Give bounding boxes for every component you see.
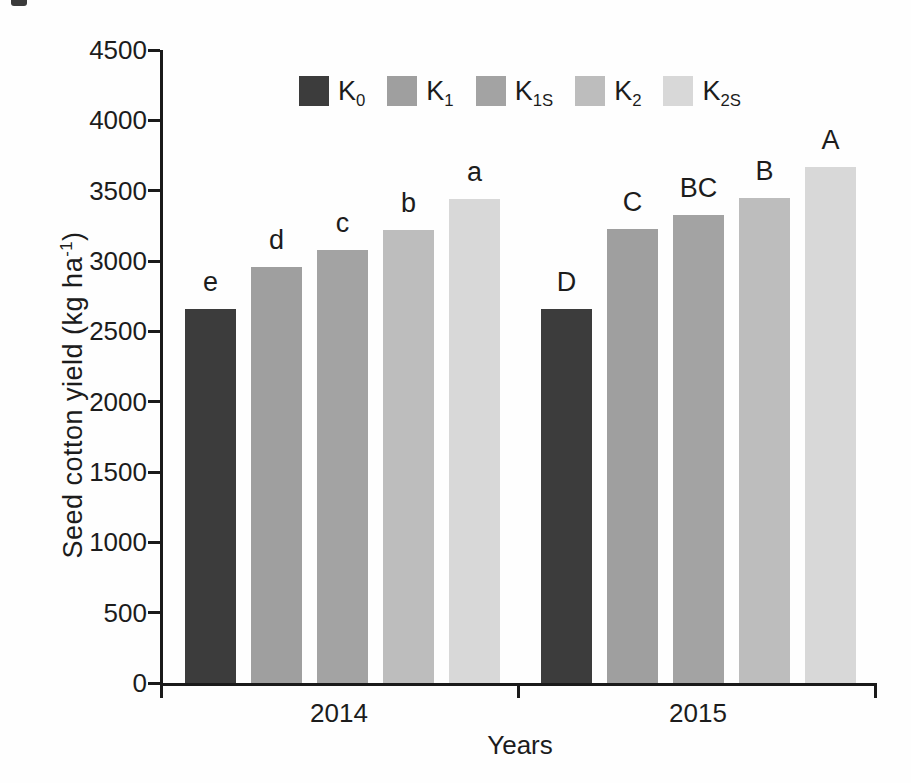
y-tick-4500 (148, 49, 160, 52)
bar-2014-K2S (449, 199, 500, 683)
sig-letter-2015-K1S: BC (680, 175, 718, 202)
legend-item-K0: K0 (299, 76, 365, 106)
y-tick-label-500: 500 (104, 600, 147, 626)
y-tick-0 (148, 682, 160, 685)
y-tick-label-2000: 2000 (89, 389, 147, 415)
legend-swatch-K0 (299, 76, 329, 106)
y-axis-title-superscript: -1 (57, 241, 76, 257)
y-tick-3000 (148, 260, 160, 263)
legend-label-K1S: K1S (515, 76, 553, 106)
sig-letter-2014-K1S: c (336, 210, 350, 237)
sig-letter-2015-K2S: A (821, 127, 839, 154)
bar-2015-K0 (541, 309, 592, 683)
scan-artifact (11, 0, 27, 6)
plot-area: 050010001500200025003000350040004500 edc… (163, 50, 877, 683)
x-axis-title: Years (487, 730, 553, 761)
y-tick-2000 (148, 400, 160, 403)
y-tick-1500 (148, 471, 160, 474)
bar-2014-K1 (251, 267, 302, 683)
legend-label-K0: K0 (338, 76, 365, 106)
category-label-2014: 2014 (310, 698, 368, 729)
legend-swatch-K1 (387, 76, 417, 106)
legend-swatch-K2S (663, 76, 693, 106)
sig-letter-2014-K2S: a (467, 159, 482, 186)
y-axis-title-text: Seed cotton yield (kg ha (58, 257, 88, 559)
y-tick-label-2500: 2500 (89, 318, 147, 344)
legend-swatch-K2 (575, 76, 605, 106)
bar-2014-K2 (383, 230, 434, 683)
sig-letter-2015-K1: C (623, 189, 643, 216)
sig-letter-2015-K2: B (755, 158, 773, 185)
legend: K0K1K1SK2K2S (299, 76, 741, 106)
x-tick-0 (160, 685, 163, 698)
bar-2015-K2 (739, 198, 790, 683)
bar-2015-K2S (805, 167, 856, 683)
sig-letter-2014-K2: b (401, 190, 416, 217)
y-tick-label-4000: 4000 (89, 107, 147, 133)
bar-2014-K0 (185, 309, 236, 683)
y-tick-label-3500: 3500 (89, 178, 147, 204)
legend-label-K1: K1 (426, 76, 453, 106)
y-axis-title: Seed cotton yield (kg ha-1) (57, 231, 89, 558)
y-tick-1000 (148, 541, 160, 544)
y-tick-label-0: 0 (133, 670, 147, 696)
legend-item-K2: K2 (575, 76, 641, 106)
x-tick-1 (517, 685, 520, 698)
legend-item-K1: K1 (387, 76, 453, 106)
legend-swatch-K1S (476, 76, 506, 106)
x-tick-2 (874, 685, 877, 698)
y-tick-4000 (148, 119, 160, 122)
legend-item-K2S: K2S (663, 76, 740, 106)
y-tick-label-3000: 3000 (89, 248, 147, 274)
y-tick-label-4500: 4500 (89, 37, 147, 63)
bar-chart-figure: Seed cotton yield (kg ha-1) 050010001500… (0, 0, 911, 783)
legend-label-K2: K2 (614, 76, 641, 106)
bar-2015-K1 (607, 229, 658, 683)
y-tick-2500 (148, 330, 160, 333)
y-axis-title-suffix: ) (58, 231, 88, 241)
y-axis-line (160, 50, 163, 686)
sig-letter-2015-K0: D (557, 269, 577, 296)
bar-2014-K1S (317, 250, 368, 683)
y-tick-label-1500: 1500 (89, 459, 147, 485)
y-tick-3500 (148, 189, 160, 192)
y-tick-label-1000: 1000 (89, 529, 147, 555)
sig-letter-2014-K0: e (203, 269, 218, 296)
y-tick-500 (148, 611, 160, 614)
bar-2015-K1S (673, 215, 724, 683)
category-label-2015: 2015 (669, 698, 727, 729)
legend-item-K1S: K1S (476, 76, 553, 106)
legend-label-K2S: K2S (702, 76, 740, 106)
sig-letter-2014-K1: d (269, 227, 284, 254)
